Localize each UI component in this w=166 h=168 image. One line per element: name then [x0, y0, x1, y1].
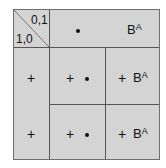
row1-left-plus: + [27, 71, 35, 85]
corner-label-bottom: 1,0 [16, 33, 33, 45]
header-b-label: BA [127, 24, 142, 37]
row2-middle-dot [85, 133, 89, 137]
payoff-table: 0,1 1,0 BA + + + BA + + + BA [13, 9, 160, 160]
row1-middle-plus: + [66, 71, 74, 85]
row2-right-plus: + [118, 127, 126, 141]
row1-right-plus: + [118, 71, 126, 85]
row2-left-plus: + [27, 127, 35, 141]
corner-label-top: 0,1 [31, 14, 48, 26]
grid-line-vertical-2 [105, 47, 106, 159]
header-dot [76, 29, 80, 33]
row2-middle-plus: + [66, 127, 74, 141]
row1-middle-dot [85, 77, 89, 81]
row2-right-b: BA [133, 128, 148, 141]
row1-right-b: BA [133, 72, 148, 85]
grid-line-horizontal-2 [49, 104, 159, 105]
